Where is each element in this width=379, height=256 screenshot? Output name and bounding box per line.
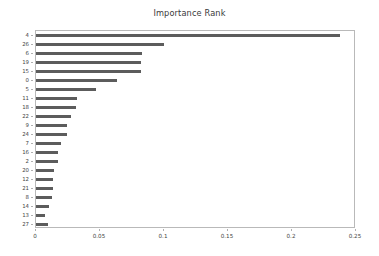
y-tick-label: 13 bbox=[22, 212, 29, 218]
bar-row bbox=[36, 88, 354, 91]
bar-row bbox=[36, 178, 354, 181]
bar-row bbox=[36, 43, 354, 46]
bar-row bbox=[36, 151, 354, 154]
bar[interactable] bbox=[36, 115, 71, 118]
x-tick-label: 0.1 bbox=[159, 233, 168, 239]
bar[interactable] bbox=[36, 187, 53, 190]
bar[interactable] bbox=[36, 214, 45, 217]
bar-row bbox=[36, 124, 354, 127]
y-tick-label: 20 bbox=[22, 167, 29, 173]
bar-row bbox=[36, 70, 354, 73]
bar-row bbox=[36, 223, 354, 226]
y-tick-mark bbox=[31, 53, 33, 54]
bar-row bbox=[36, 79, 354, 82]
bar-row bbox=[36, 97, 354, 100]
y-tick-mark bbox=[31, 62, 33, 63]
bar[interactable] bbox=[36, 52, 142, 55]
y-tick-label: 11 bbox=[22, 95, 29, 101]
x-tick-label: 0 bbox=[33, 233, 37, 239]
bar[interactable] bbox=[36, 43, 164, 46]
bar[interactable] bbox=[36, 124, 67, 127]
y-tick-mark bbox=[31, 71, 33, 72]
x-tick-mark bbox=[227, 229, 228, 231]
x-tick-mark bbox=[355, 229, 356, 231]
bar-row bbox=[36, 187, 354, 190]
bar-row bbox=[36, 196, 354, 199]
y-tick-mark bbox=[31, 206, 33, 207]
y-tick-mark bbox=[31, 215, 33, 216]
y-tick-mark bbox=[31, 44, 33, 45]
bar[interactable] bbox=[36, 106, 76, 109]
y-tick-label: 19 bbox=[22, 59, 29, 65]
y-tick-label: 4 bbox=[26, 32, 29, 38]
y-tick-mark bbox=[31, 197, 33, 198]
y-tick-label: 24 bbox=[22, 131, 29, 137]
bar-row bbox=[36, 61, 354, 64]
bar[interactable] bbox=[36, 97, 77, 100]
bar[interactable] bbox=[36, 70, 141, 73]
y-tick-mark bbox=[31, 143, 33, 144]
y-tick-mark bbox=[31, 107, 33, 108]
bar-row bbox=[36, 214, 354, 217]
y-tick-label: 14 bbox=[22, 203, 29, 209]
bar[interactable] bbox=[36, 88, 96, 91]
y-tick-label: 26 bbox=[22, 41, 29, 47]
bar[interactable] bbox=[36, 205, 49, 208]
y-tick-mark bbox=[31, 188, 33, 189]
y-tick-mark bbox=[31, 125, 33, 126]
y-tick-mark bbox=[31, 179, 33, 180]
x-tick-label: 0.05 bbox=[93, 233, 105, 239]
bar[interactable] bbox=[36, 61, 141, 64]
y-tick-label: 6 bbox=[26, 50, 29, 56]
bar[interactable] bbox=[36, 169, 54, 172]
bar-row bbox=[36, 169, 354, 172]
bar-row bbox=[36, 52, 354, 55]
y-tick-label: 22 bbox=[22, 113, 29, 119]
y-tick-label: 27 bbox=[22, 221, 29, 227]
bar-row bbox=[36, 115, 354, 118]
bar[interactable] bbox=[36, 133, 67, 136]
importance-rank-bar-chart: Importance Rank 426619150511182292471622… bbox=[0, 0, 379, 256]
y-tick-label: 5 bbox=[26, 86, 29, 92]
bars-layer bbox=[36, 31, 354, 227]
x-tick-label: 0.2 bbox=[287, 233, 296, 239]
y-tick-mark bbox=[31, 98, 33, 99]
plot-area bbox=[35, 30, 355, 228]
bar[interactable] bbox=[36, 223, 48, 226]
bar[interactable] bbox=[36, 79, 117, 82]
bar-row bbox=[36, 205, 354, 208]
bar[interactable] bbox=[36, 160, 58, 163]
y-tick-label: 7 bbox=[26, 140, 29, 146]
bar[interactable] bbox=[36, 178, 53, 181]
bar-row bbox=[36, 160, 354, 163]
bar[interactable] bbox=[36, 151, 58, 154]
x-tick-label: 0.15 bbox=[221, 233, 233, 239]
bar[interactable] bbox=[36, 196, 52, 199]
x-tick-mark bbox=[99, 229, 100, 231]
y-axis: 426619150511182292471622012218141327 bbox=[0, 30, 33, 228]
x-tick-mark bbox=[291, 229, 292, 231]
bar-row bbox=[36, 133, 354, 136]
y-tick-label: 2 bbox=[26, 158, 29, 164]
y-tick-mark bbox=[31, 89, 33, 90]
bar-row bbox=[36, 142, 354, 145]
y-tick-label: 9 bbox=[26, 122, 29, 128]
x-axis: 00.050.10.150.20.25 bbox=[35, 229, 355, 243]
y-tick-mark bbox=[31, 224, 33, 225]
bar[interactable] bbox=[36, 34, 340, 37]
y-tick-label: 16 bbox=[22, 149, 29, 155]
y-tick-mark bbox=[31, 170, 33, 171]
x-tick-mark bbox=[163, 229, 164, 231]
bar[interactable] bbox=[36, 142, 61, 145]
x-tick-label: 0.25 bbox=[349, 233, 361, 239]
bar-row bbox=[36, 106, 354, 109]
y-tick-label: 0 bbox=[26, 77, 29, 83]
y-tick-mark bbox=[31, 116, 33, 117]
y-tick-mark bbox=[31, 80, 33, 81]
y-tick-label: 21 bbox=[22, 185, 29, 191]
bar-row bbox=[36, 34, 354, 37]
y-tick-label: 18 bbox=[22, 104, 29, 110]
y-tick-label: 8 bbox=[26, 194, 29, 200]
y-tick-mark bbox=[31, 35, 33, 36]
y-tick-mark bbox=[31, 134, 33, 135]
